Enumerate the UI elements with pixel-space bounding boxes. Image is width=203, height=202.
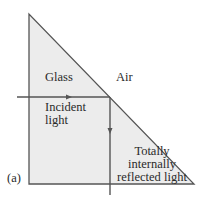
reflected-light-label: Totally internally reflected light [111,145,193,184]
panel-label: (a) [7,172,21,185]
air-label: Air [116,71,133,84]
incident-label-line2: light [45,114,86,127]
reflected-label-line3: reflected light [111,171,193,184]
glass-label: Glass [45,71,73,84]
total-internal-reflection-diagram: Glass Air Incident light Totally interna… [0,0,203,202]
incident-light-label: Incident light [45,101,86,127]
